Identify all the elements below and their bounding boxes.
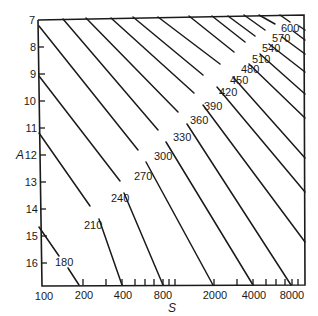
contour-label-510: 510 [252, 53, 270, 65]
y-tick-label-7: 7 [29, 14, 35, 26]
contour-line-390-b [217, 87, 305, 192]
contour-line-270-b [146, 162, 213, 285]
y-tick-label-9: 9 [30, 68, 36, 80]
x-tick-label-2000: 2000 [203, 289, 227, 301]
y-tick-label-14: 14 [26, 203, 38, 215]
contour-label-240: 240 [111, 192, 129, 204]
contour-line-180-b [68, 268, 79, 285]
contour-label-270: 270 [134, 170, 152, 182]
y-tick-label-8: 8 [30, 41, 36, 53]
y-axis-label: A [15, 148, 24, 162]
contour-label-330: 330 [173, 131, 191, 143]
contour-label-360: 360 [190, 114, 208, 126]
contour-label-420: 420 [219, 86, 237, 98]
y-tick-label-10: 10 [24, 95, 36, 107]
contour-line-420 [158, 17, 220, 64]
y-tick-label-12: 12 [25, 149, 37, 161]
contour-line-330 [86, 18, 178, 112]
contour-label-300: 300 [154, 150, 172, 162]
contour-line-420-b [233, 77, 305, 158]
contour-line-450 [189, 16, 234, 52]
contour-chart: 180 210 240 270 300 330 360 390 420 450 … [0, 0, 318, 316]
contour-line-210-b [99, 219, 122, 285]
contour-line-210 [39, 133, 90, 206]
contour-line-390 [133, 17, 203, 75]
x-tick-label-800: 800 [154, 289, 172, 301]
x-tick-label-8000: 8000 [280, 289, 304, 301]
contour-label-210: 210 [84, 219, 102, 231]
y-tick-label-13: 13 [25, 176, 37, 188]
x-tick-label-200: 200 [75, 289, 93, 301]
contour-label-180: 180 [55, 256, 73, 268]
contour-line-300-b [166, 142, 253, 285]
x-axis-label: S [168, 301, 176, 315]
contour-line-240 [39, 76, 120, 181]
contour-line-510 [228, 16, 255, 36]
y-tick-label-15: 15 [26, 230, 38, 242]
contour-label-450: 450 [230, 74, 248, 86]
contour-line-270 [39, 26, 138, 150]
contour-label-390: 390 [204, 100, 222, 112]
x-tick-label-4000: 4000 [242, 289, 266, 301]
y-tick-label-11: 11 [26, 122, 37, 134]
x-tick-label-100: 100 [35, 290, 53, 302]
contour-label-600: 600 [281, 22, 299, 34]
y-tick-label-16: 16 [26, 257, 38, 269]
x-tick-label-400: 400 [114, 289, 132, 301]
contour-line-240-b [124, 193, 163, 285]
